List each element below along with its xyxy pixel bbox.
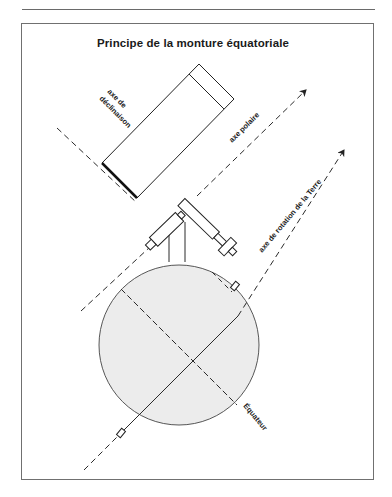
polar-axis-housing <box>144 209 188 252</box>
telescope-tube <box>102 64 234 198</box>
label-polar-axis: axe polaire <box>227 110 261 144</box>
label-earth-rotation-axis: axe de rotation de la Terre <box>257 177 324 254</box>
label-equator: Équateur <box>241 402 269 433</box>
equatorial-mount-diagram: axe de déclinaison axe polaire axe de ro… <box>0 0 392 497</box>
